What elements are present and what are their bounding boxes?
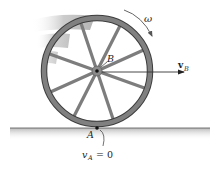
point-b-dot bbox=[95, 69, 99, 73]
point-a-label: A bbox=[86, 129, 94, 140]
diagram-canvas: ω B v B A v A = 0 bbox=[0, 0, 222, 169]
omega-label: ω bbox=[144, 13, 152, 24]
velocity-b-label: v bbox=[177, 60, 184, 70]
ground bbox=[10, 128, 210, 140]
point-b-label: B bbox=[106, 53, 114, 64]
velocity-a-subscript: A bbox=[87, 154, 93, 162]
wheel bbox=[44, 18, 150, 124]
velocity-a-equals: = 0 bbox=[96, 149, 113, 160]
point-a-dot bbox=[95, 126, 99, 130]
velocity-b-subscript: B bbox=[183, 65, 189, 73]
rolling-wheel-diagram: ω B v B A v A = 0 bbox=[0, 0, 222, 169]
